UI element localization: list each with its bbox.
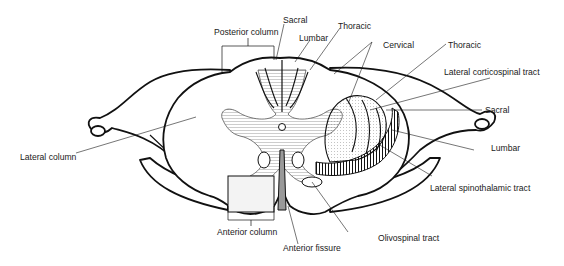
central-canal [279, 124, 286, 131]
label-anterior-fissure: Anterior fissure [283, 243, 341, 253]
label-anterior-column: Anterior column [217, 227, 277, 237]
label-lateral-spinothalamic-tract: Lateral spinothalamic tract [430, 183, 531, 193]
label-lumbar-right: Lumbar [491, 143, 520, 153]
label-lateral-column: Lateral column [20, 152, 77, 162]
label-thoracic-right: Thoracic [448, 40, 482, 50]
label-thoracic-top: Thoracic [338, 21, 372, 31]
label-lateral-corticospinal-tract: Lateral corticospinal tract [444, 67, 540, 77]
label-lumbar-top: Lumbar [299, 33, 328, 43]
label-cervical: Cervical [383, 40, 414, 50]
label-olivospinal-tract: Olivospinal tract [378, 233, 440, 243]
spinal-cord-diagram: Posterior column Sacral Lumbar Thoracic … [0, 0, 564, 266]
label-posterior-column: Posterior column [214, 27, 279, 37]
label-sacral-top: Sacral [283, 15, 307, 25]
label-sacral-right: Sacral [485, 105, 509, 115]
anterior-fissure-shape [278, 150, 286, 210]
